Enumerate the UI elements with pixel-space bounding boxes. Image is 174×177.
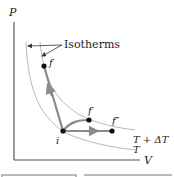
bottom-box-left [2,175,76,177]
point-f-prime [86,117,91,122]
label-i: i [56,135,59,146]
x-axis-label: V [144,154,153,167]
isotherm-T-plus-dT [40,42,135,130]
point-f-double-prime [109,128,114,133]
label-f-double-prime: f″ [111,115,120,126]
isotherms-pointer-2 [42,45,62,56]
isotherms-annotation: Isotherms [64,38,120,51]
point-i [60,128,65,133]
pv-diagram: P V Isotherms i f f′ f″ T + ΔT T [0,0,174,177]
isotherm-label-T: T [133,144,141,155]
y-axis-label: P [8,6,17,19]
path-i-to-f1 [63,120,88,131]
label-f-prime: f′ [87,105,95,116]
isotherms-pointer-1 [28,45,62,46]
label-f: f [48,57,55,68]
point-f [41,63,46,68]
